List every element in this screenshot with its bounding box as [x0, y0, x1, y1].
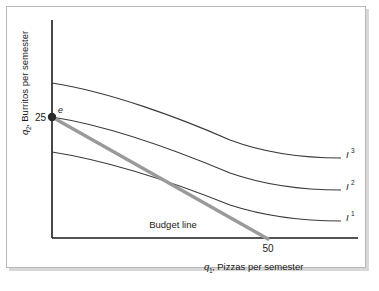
indifference-curve-i2 [52, 117, 341, 190]
point-e-marker [48, 113, 56, 121]
point-e-label: e [58, 105, 63, 115]
curve-label-i1-text: I [346, 212, 349, 223]
x-tick-label-50: 50 [262, 243, 274, 254]
curve-label-i1-sup: 1 [351, 210, 355, 217]
curve-label-i3: I 3 [346, 147, 355, 160]
curve-label-i3-sup: 3 [351, 147, 355, 154]
indifference-curve-chart: e 25 50 Budget line I 3 I 2 I 1 q 1 , Pi… [0, 0, 379, 291]
figure-container: e 25 50 Budget line I 3 I 2 I 1 q 1 , Pi… [0, 0, 379, 291]
curve-label-i2: I 2 [346, 179, 355, 192]
indifference-curve-i3 [52, 83, 341, 158]
curve-label-i3-text: I [346, 149, 349, 160]
x-axis-label-rest: , Pizzas per semester [212, 261, 303, 272]
indifference-curve-i1 [52, 152, 341, 221]
x-axis-label: q 1 , Pizzas per semester [204, 261, 303, 274]
curve-label-i2-text: I [346, 181, 349, 192]
y-tick-label-25: 25 [35, 112, 47, 123]
curve-label-i1: I 1 [346, 210, 355, 223]
y-axis-label: q 2 , Burritos per semester [19, 31, 32, 135]
curve-label-i2-sup: 2 [351, 179, 355, 186]
y-axis-label-rest: , Burritos per semester [19, 31, 30, 127]
budget-line-label: Budget line [149, 219, 197, 230]
